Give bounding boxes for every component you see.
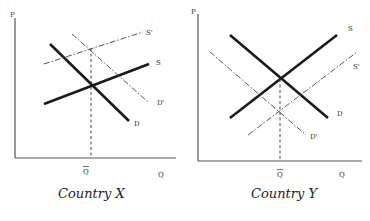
qbar-label: Q bbox=[83, 168, 89, 176]
demand-curve-d-prime-label: D' bbox=[310, 133, 318, 141]
panel-country-x: P D S S' D' Q Q Country X bbox=[10, 11, 176, 201]
demand-curve-d-prime-label: D' bbox=[157, 99, 165, 107]
x-axis-label: Q bbox=[158, 171, 164, 179]
panel-country-y: P D S S' D' Q Q Country Y bbox=[191, 8, 362, 201]
demand-curve-d-label: D bbox=[134, 120, 140, 128]
supply-curve-s-label: S bbox=[156, 59, 161, 67]
supply-curve-s-label: S bbox=[348, 25, 353, 33]
supply-curve-s bbox=[44, 64, 149, 104]
caption-country-x: Country X bbox=[58, 186, 125, 201]
supply-demand-diagrams: P D S S' D' Q Q Country X P D S S' bbox=[0, 0, 370, 221]
demand-curve-d bbox=[50, 44, 129, 121]
caption-country-y: Country Y bbox=[251, 186, 318, 201]
y-axis-label: P bbox=[191, 8, 196, 16]
qbar-label: Q bbox=[277, 171, 283, 179]
x-axis-label: Q bbox=[339, 171, 345, 179]
supply-curve-s-prime-label: S' bbox=[146, 29, 153, 37]
demand-curve-d-label: D bbox=[337, 110, 343, 118]
supply-curve-s-prime bbox=[44, 32, 143, 64]
demand-curve-d-prime bbox=[210, 52, 306, 135]
supply-curve-s-prime-label: S' bbox=[353, 63, 360, 71]
y-axis-label: P bbox=[10, 11, 15, 19]
